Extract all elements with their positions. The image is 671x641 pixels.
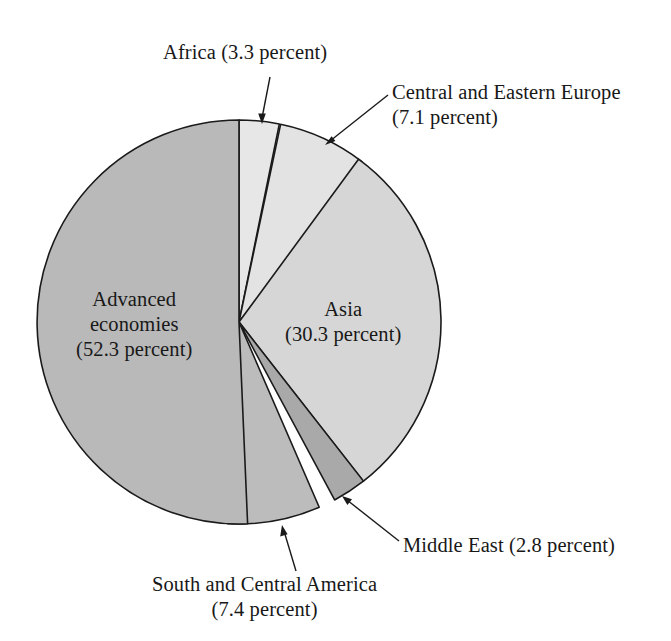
slice-label-advanced-economies-line3: (52.3 percent) [76,337,192,362]
slice-label-south-central-america-line1: South and Central America [152,572,377,597]
slice-label-south-central-america-line2: (7.4 percent) [152,597,377,622]
slice-label-asia-line2: (30.3 percent) [285,322,401,347]
slice-label-africa-line1: Africa (3.3 percent) [163,40,327,65]
slice-label-middle-east-line1: Middle East (2.8 percent) [403,533,615,558]
slice-label-central-eastern-europe-line2: (7.1 percent) [392,105,621,130]
leader-line-africa [258,77,270,124]
slice-label-south-central-america: South and Central America (7.4 percent) [152,572,377,622]
slice-label-central-eastern-europe: Central and Eastern Europe (7.1 percent) [392,80,621,130]
slice-label-central-eastern-europe-line1: Central and Eastern Europe [392,80,621,105]
slice-label-africa: Africa (3.3 percent) [163,40,327,65]
slice-label-asia-line1: Asia [285,297,401,322]
pie-chart-figure: Africa (3.3 percent) Central and Eastern… [0,0,671,641]
slice-label-asia: Asia (30.3 percent) [285,297,401,347]
slice-label-advanced-economies-line1: Advanced [76,287,192,312]
leader-line-south-central-america [280,525,296,571]
leader-line-central-eastern-europe [325,95,388,145]
slice-label-advanced-economies-line2: economies [76,312,192,337]
leader-line-middle-east [342,496,399,541]
slice-label-middle-east: Middle East (2.8 percent) [403,533,615,558]
slice-label-advanced-economies: Advanced economies (52.3 percent) [76,287,192,362]
